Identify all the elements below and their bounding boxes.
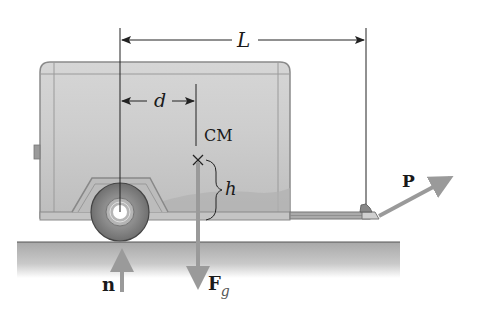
label-L: L bbox=[237, 30, 250, 50]
label-Fg-main: F bbox=[208, 273, 221, 294]
label-CM: CM bbox=[204, 128, 233, 144]
label-P: P bbox=[402, 173, 415, 190]
label-Fg-sub: g bbox=[221, 283, 230, 299]
label-n: n bbox=[102, 276, 115, 294]
label-d: d bbox=[154, 91, 166, 110]
label-h: h bbox=[225, 180, 237, 198]
trailer-body bbox=[34, 62, 290, 220]
trailer-tongue bbox=[290, 204, 379, 219]
label-Fg: Fg bbox=[208, 275, 230, 293]
